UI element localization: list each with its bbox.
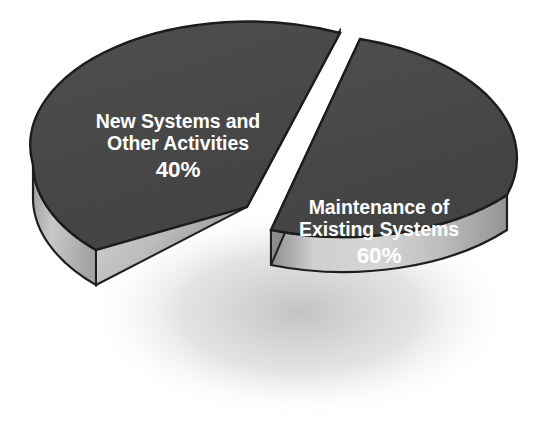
pie-chart-graphic [0, 0, 545, 433]
pie-chart-figure: New Systems and Other Activities 40% Mai… [0, 0, 545, 433]
